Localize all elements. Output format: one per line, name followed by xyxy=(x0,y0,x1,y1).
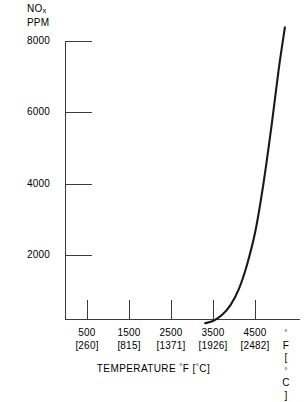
x-axis-caption: TEMPERATURE °F [°C] xyxy=(0,362,307,374)
nox-curve xyxy=(205,27,285,323)
x-axis-caption-units: °F [°C] xyxy=(179,363,210,374)
x-axis-caption-text: TEMPERATURE xyxy=(97,363,176,374)
x-axis-unit-celsius: [°C] xyxy=(265,352,307,402)
x-axis-unit-fahrenheit: °F xyxy=(265,327,307,352)
